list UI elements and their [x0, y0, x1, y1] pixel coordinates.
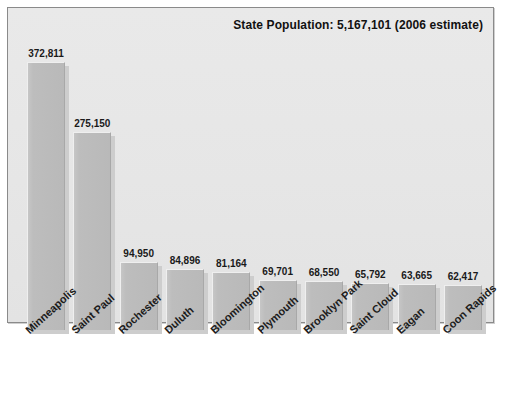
bar-rect — [27, 62, 65, 330]
bar-value-label: 69,701 — [262, 266, 293, 277]
bar-value-label: 62,417 — [448, 271, 479, 282]
bar-value-label: 84,896 — [170, 255, 201, 266]
bar-value-label: 68,550 — [309, 267, 340, 278]
bar-value-label: 94,950 — [123, 248, 154, 259]
bar-value-label: 372,811 — [28, 48, 64, 59]
bar-minneapolis[interactable]: 372,811 — [27, 62, 65, 330]
plot-frame: State Population: 5,167,101 (2006 estima… — [7, 7, 494, 323]
bar-value-label: 65,792 — [355, 269, 386, 280]
bar-chart-figure: State Population: 5,167,101 (2006 estima… — [0, 0, 509, 408]
bar-value-label: 63,665 — [401, 270, 432, 281]
bar-value-label: 275,150 — [74, 118, 110, 129]
bar-value-label: 81,164 — [216, 258, 247, 269]
